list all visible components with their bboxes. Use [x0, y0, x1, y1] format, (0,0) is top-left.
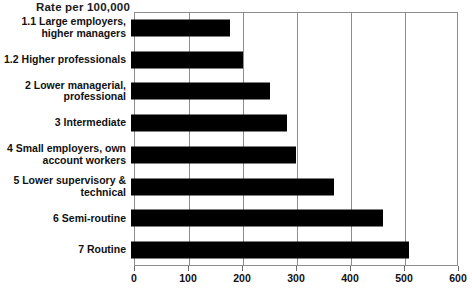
bar: [131, 178, 334, 195]
bar-row: 6 Semi-routine: [0, 203, 472, 235]
bar: [131, 51, 243, 68]
x-tick: [188, 266, 189, 271]
category-label: 5 Lower supervisory & technical: [0, 175, 130, 198]
bar-track: [130, 44, 472, 76]
bar: [131, 19, 230, 36]
category-label: 1.2 Higher professionals: [0, 54, 130, 66]
x-tick-label: 100: [179, 272, 197, 284]
bar-row: 1.2 Higher professionals: [0, 44, 472, 76]
bar-chart: Rate per 100,000 1.1 Large employers, hi…: [0, 0, 472, 292]
bar-track: [130, 171, 472, 203]
category-label: 2 Lower managerial, professional: [0, 80, 130, 103]
x-tick-label: 200: [233, 272, 251, 284]
bar-track: [130, 139, 472, 171]
bar: [131, 242, 409, 259]
bar-row: 4 Small employers, own account workers: [0, 139, 472, 171]
x-tick-label: 600: [449, 272, 467, 284]
bar-track: [130, 76, 472, 108]
bar: [131, 83, 270, 100]
bar-track: [130, 12, 472, 44]
bar-row: 3 Intermediate: [0, 107, 472, 139]
bar-row: 2 Lower managerial, professional: [0, 76, 472, 108]
category-label: 4 Small employers, own account workers: [0, 143, 130, 166]
x-tick: [296, 266, 297, 271]
bar: [131, 115, 287, 132]
bar-track: [130, 203, 472, 235]
x-tick-label: 400: [341, 272, 359, 284]
x-tick: [404, 266, 405, 271]
category-label: 1.1 Large employers, higher managers: [0, 16, 130, 39]
x-tick: [350, 266, 351, 271]
x-tick-label: 500: [395, 272, 413, 284]
bar-row: 7 Routine: [0, 234, 472, 266]
x-tick: [134, 266, 135, 271]
bar-row: 1.1 Large employers, higher managers: [0, 12, 472, 44]
bar-track: [130, 234, 472, 266]
x-tick-label: 0: [131, 272, 137, 284]
bar: [131, 146, 296, 163]
category-label: 6 Semi-routine: [0, 213, 130, 225]
bar-track: [130, 107, 472, 139]
bar: [131, 210, 383, 227]
bar-rows: 1.1 Large employers, higher managers1.2 …: [0, 12, 472, 266]
category-label: 7 Routine: [0, 244, 130, 256]
x-tick: [242, 266, 243, 271]
bar-row: 5 Lower supervisory & technical: [0, 171, 472, 203]
category-label: 3 Intermediate: [0, 117, 130, 129]
x-tick: [458, 266, 459, 271]
x-tick-label: 300: [287, 272, 305, 284]
x-axis: 0100200300400500600: [134, 266, 458, 292]
